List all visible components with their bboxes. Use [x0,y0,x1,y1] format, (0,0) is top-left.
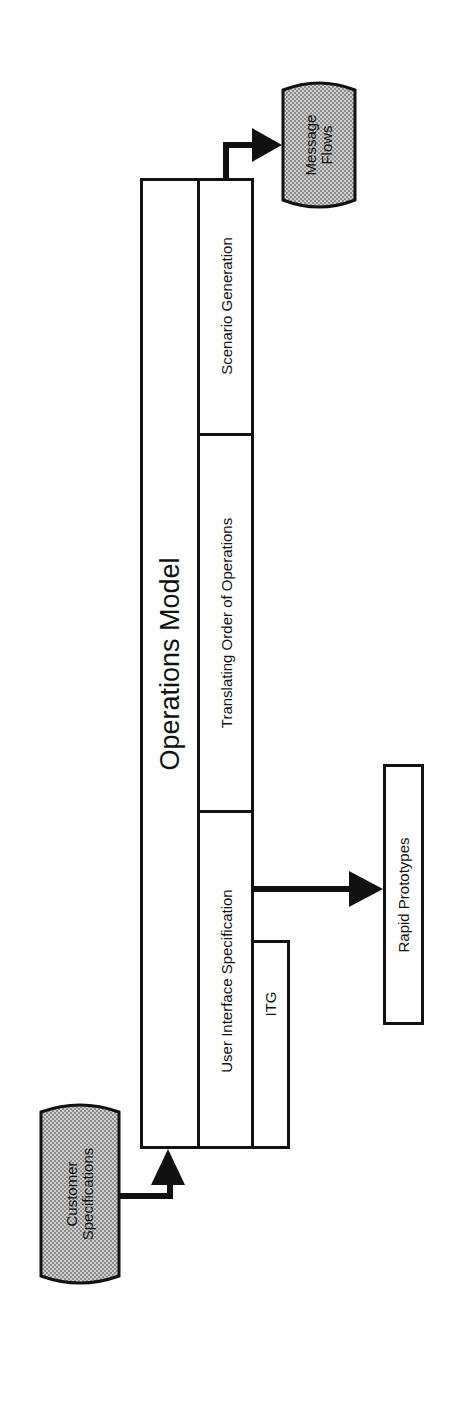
customer-specifications-line1: Customer [63,1161,80,1226]
section-label: Scenario Generation [219,237,235,375]
arrow-to-message-flows [226,145,255,178]
arrowhead-rapid-prototypes [349,871,383,907]
operations-model-box: Operations Model Scenario Generation Tra… [140,178,254,1149]
customer-specifications-label: Customer Specifications [64,1148,96,1241]
section-label: User Interface Specification [219,889,235,1072]
customer-specifications-terminal: Customer Specifications [38,1100,122,1288]
section-label: Translating Order of Operations [219,518,235,728]
operations-model-title-area: Operations Model [143,181,197,1146]
operations-model-title: Operations Model [156,557,184,770]
itg-box: ITG [251,940,290,1149]
message-flows-label: Message Flows [303,115,335,176]
itg-label: ITG [263,991,279,1016]
section-user-interface-spec: User Interface Specification [200,813,254,1149]
message-flows-line1: Message [302,115,319,176]
operations-model-sections: Scenario Generation Translating Order of… [197,178,254,1149]
operations-model-diagram: Operations Model Scenario Generation Tra… [0,0,456,1413]
arrowhead-operations-model [151,1149,185,1185]
message-flows-terminal: Message Flows [280,78,358,212]
customer-specifications-line2: Specifications [79,1148,96,1241]
section-scenario-generation: Scenario Generation [200,178,254,436]
rapid-prototypes-label: Rapid Prototypes [396,837,412,952]
arrowhead-message-flows [252,128,282,162]
section-translating-order: Translating Order of Operations [200,436,254,813]
message-flows-line2: Flows [318,125,335,164]
rapid-prototypes-box: Rapid Prototypes [383,764,424,1025]
